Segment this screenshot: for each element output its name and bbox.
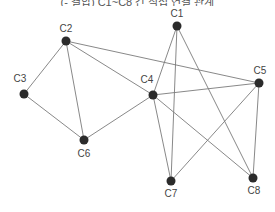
node-label-c7: C7 [165, 188, 178, 199]
node-c4 [149, 91, 158, 100]
edge-c3-c6 [24, 94, 84, 140]
graph-nodes [20, 22, 264, 186]
edge-c2-c5 [66, 41, 259, 83]
node-c6 [80, 136, 89, 145]
node-c1 [173, 22, 182, 31]
node-c5 [255, 79, 264, 88]
node-c3 [20, 90, 29, 99]
node-label-c1: C1 [171, 8, 184, 19]
node-c2 [62, 37, 71, 46]
edge-c6-c4 [84, 95, 153, 140]
edge-c5-c8 [253, 83, 259, 178]
node-label-c5: C5 [254, 65, 267, 76]
edge-c2-c4 [66, 41, 153, 95]
node-c7 [167, 177, 176, 186]
node-label-c4: C4 [141, 74, 154, 85]
graph-edges [24, 26, 259, 181]
node-label-c8: C8 [248, 185, 261, 196]
network-graph: C1C2C3C4C5C6C7C8 [0, 0, 275, 212]
edge-c2-c6 [66, 41, 84, 140]
edge-c5-c7 [171, 83, 259, 181]
edge-c1-c7 [171, 26, 177, 181]
node-label-c6: C6 [78, 148, 91, 159]
node-label-c2: C2 [60, 23, 73, 34]
node-c8 [249, 174, 258, 183]
edge-c2-c3 [24, 41, 66, 94]
node-label-c3: C3 [14, 73, 27, 84]
